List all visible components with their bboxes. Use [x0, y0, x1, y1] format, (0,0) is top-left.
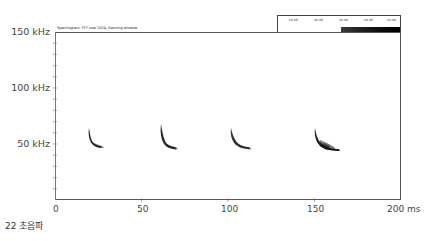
y-tick-label-150: 150 kHz — [0, 26, 50, 37]
y-tick-label-50: 50 kHz — [0, 138, 50, 149]
x-tick-label-50: 50 — [137, 204, 148, 214]
x-tick-label-100: 100 — [221, 204, 238, 214]
x-tick-label-0: 0 — [53, 204, 59, 214]
echolocation-calls — [89, 124, 340, 151]
x-tick-label-200: 200 ms — [387, 204, 421, 214]
y-axis-ticks — [53, 43, 57, 189]
x-axis-ticks — [142, 198, 315, 202]
figure-caption: 22 초음파 — [5, 219, 43, 232]
x-tick-label-150: 150 — [307, 204, 324, 214]
y-tick-label-100: 100 kHz — [0, 82, 50, 93]
spectrogram-graphics — [0, 0, 434, 241]
